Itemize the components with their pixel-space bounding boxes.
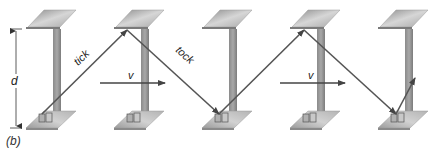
top-mirror	[28, 10, 76, 27]
distance-label: d	[11, 74, 18, 88]
emitter-box	[127, 114, 133, 122]
light-clock-4	[290, 10, 340, 130]
top-mirror	[292, 10, 340, 27]
light-clock-3	[202, 10, 252, 130]
pillar	[53, 29, 61, 113]
tick-label: tick	[71, 47, 92, 67]
tock-label: tock	[174, 44, 197, 67]
plate-edge	[378, 128, 410, 130]
light-path	[42, 30, 415, 114]
light-clock-2	[114, 10, 164, 130]
mirror-edge	[114, 27, 148, 29]
mirror-edge	[26, 27, 60, 29]
pillar	[405, 29, 413, 113]
ray-tock-1	[127, 30, 219, 114]
top-mirror	[204, 10, 252, 27]
detector-box	[222, 113, 228, 122]
top-mirror	[380, 10, 428, 27]
detector-box	[134, 113, 140, 122]
emitter-box	[39, 114, 45, 122]
light-clock-1	[26, 10, 76, 130]
mirror-edge	[202, 27, 236, 29]
velocity-label-1: v	[128, 69, 135, 81]
detector-box	[398, 113, 404, 122]
diagram-canvas: d tick tock v v	[0, 0, 442, 152]
top-mirror	[116, 10, 164, 27]
emitter-box	[215, 114, 221, 122]
plate-edge	[202, 128, 234, 130]
mirror-edge	[378, 27, 412, 29]
pillar	[141, 29, 149, 113]
light-clock-diagram: d tick tock v v (b)	[0, 0, 442, 152]
plate-edge	[26, 128, 58, 130]
mirror-edge	[290, 27, 324, 29]
detector-box	[310, 113, 316, 122]
velocity-label-2: v	[308, 69, 315, 81]
emitter-box	[303, 114, 309, 122]
plate-edge	[114, 128, 146, 130]
light-clock-5	[378, 10, 428, 130]
detector-box	[46, 113, 52, 122]
pillar	[317, 29, 325, 113]
panel-label: (b)	[6, 134, 21, 148]
emitter-box	[391, 114, 397, 122]
plate-edge	[290, 128, 322, 130]
